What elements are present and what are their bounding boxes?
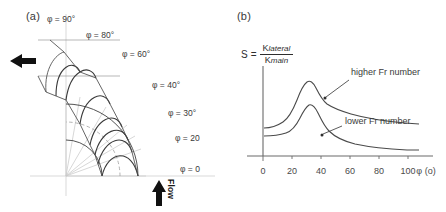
angle-label-90: φ = 90° [47, 14, 75, 24]
x-tick-80: 80 [374, 166, 384, 176]
panel-b: (b) S = Klateral Kmain [223, 0, 446, 212]
x-axis-ticks [263, 156, 408, 161]
s-vs-phi-chart: 0 20 40 60 80 100 φ (o) highe [223, 0, 446, 212]
bend-geometry-diagram: φ = 90° φ = 80° φ = 60° φ = 40° φ = 30° … [0, 0, 223, 212]
chart-axes [247, 66, 433, 156]
outlet-flow-arrow-icon [10, 54, 36, 68]
angle-label-30: φ = 30° [168, 108, 196, 118]
x-tick-20: 20 [287, 166, 297, 176]
flow-label: Flow [166, 179, 176, 199]
angle-label-0: φ = 0 [180, 164, 200, 174]
angle-label-80: φ = 80° [86, 30, 114, 40]
x-tick-100: 100 [400, 166, 415, 176]
label-higher-fr: higher Fr number [351, 67, 420, 77]
x-tick-40: 40 [316, 166, 326, 176]
curve-lower-fr [264, 105, 419, 150]
panel-a: (a) [0, 0, 223, 212]
figure-container: (a) [0, 0, 446, 212]
x-tick-0: 0 [260, 166, 265, 176]
angle-labels: φ = 90° φ = 80° φ = 60° φ = 40° φ = 30° … [47, 14, 200, 174]
cross-section-profiles [56, 65, 138, 176]
angle-label-60: φ = 60° [122, 49, 150, 59]
x-tick-60: 60 [345, 166, 355, 176]
x-axis-tick-labels: 0 20 40 60 80 100 φ (o) [260, 166, 435, 176]
label-lower-fr: lower Fr number [345, 116, 411, 126]
inlet-flow-arrow-icon [152, 180, 166, 206]
angle-label-40: φ = 40° [152, 80, 180, 90]
x-axis-label: φ (o) [416, 166, 435, 176]
angle-label-20: φ = 20 [175, 133, 200, 143]
